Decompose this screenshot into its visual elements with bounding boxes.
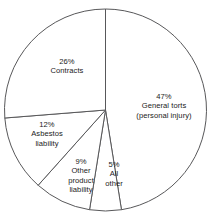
- slice-percent-general-torts: 47%: [120, 92, 208, 101]
- slice-label-contracts: 26% Contracts: [34, 57, 100, 76]
- slice-name-all-other-line1: All: [98, 169, 130, 178]
- slice-name-asbestos-liability-line2: liability: [16, 139, 78, 148]
- slice-name-general-torts-line2: (personal injury): [120, 111, 208, 120]
- slice-label-general-torts: 47% General torts (personal injury): [120, 92, 208, 120]
- slice-label-all-other: 5% All other: [98, 160, 130, 188]
- pie-chart: 47% General torts (personal injury) 26% …: [0, 0, 211, 220]
- slice-name-contracts: Contracts: [34, 66, 100, 75]
- slice-label-asbestos-liability: 12% Asbestos liability: [16, 120, 78, 148]
- slice-name-all-other-line2: other: [98, 179, 130, 188]
- slice-name-asbestos-liability-line1: Asbestos: [16, 129, 78, 138]
- slice-percent-asbestos-liability: 12%: [16, 120, 78, 129]
- slice-percent-all-other: 5%: [98, 160, 130, 169]
- slice-percent-contracts: 26%: [34, 57, 100, 66]
- slice-name-general-torts-line1: General torts: [120, 101, 208, 110]
